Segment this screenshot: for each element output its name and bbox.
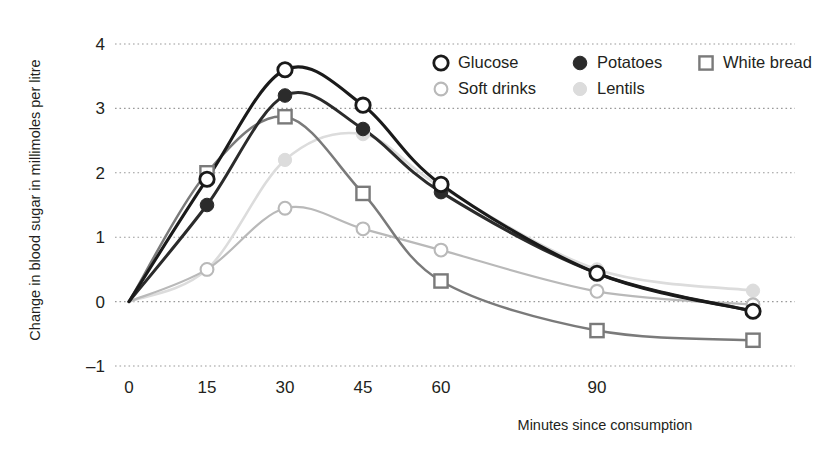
marker-potatoes-45 [356,122,370,136]
x-tick-60: 60 [432,378,451,397]
marker-white-bread-45 [356,187,369,200]
marker-white-bread-60 [434,274,447,287]
marker-soft-drinks-90 [591,285,604,298]
y-tick-4: 4 [96,35,105,54]
y-tick-1: 1 [96,228,105,247]
y-tick--1: –1 [86,357,105,376]
x-tick-0: 0 [124,378,133,397]
legend-label-potatoes: Potatoes [597,53,662,71]
marker-white-bread-90 [590,324,603,337]
marker-soft-drinks-15 [201,263,214,276]
chart-figure: –101234 01530456090 Minutes since consum… [0,0,838,469]
y-axis-title: Change in blood sugar in millimoles per … [27,59,43,340]
x-tick-90: 90 [588,378,607,397]
marker-glucose-90 [590,266,604,280]
marker-glucose-60 [434,177,448,191]
marker-soft-drinks-30 [279,202,292,215]
x-tick-45: 45 [354,378,373,397]
legend-marker-potatoes [573,56,587,70]
marker-lentils-30 [278,153,291,166]
legend-marker-soft-drinks [435,83,448,96]
marker-glucose-30 [278,63,292,77]
legend-label-white-bread: White bread [723,53,812,71]
y-tick-3: 3 [96,99,105,118]
marker-white-bread-30 [278,110,291,123]
y-tick-0: 0 [96,293,105,312]
marker-glucose-90 [746,304,760,318]
legend-marker-glucose [434,56,448,70]
marker-potatoes-15 [200,198,214,212]
y-tick-2: 2 [96,164,105,183]
line-chart-svg: –101234 01530456090 Minutes since consum… [0,0,838,469]
x-axis-title: Minutes since consumption [518,417,693,433]
legend-marker-lentils [573,82,586,95]
x-tick-30: 30 [276,378,295,397]
legend-label-lentils: Lentils [597,79,645,97]
legend-label-glucose: Glucose [458,53,519,71]
legend-label-soft-drinks: Soft drinks [458,79,536,97]
legend-marker-white-bread [699,56,712,69]
x-tick-15: 15 [198,378,217,397]
marker-white-bread-90 [746,334,759,347]
marker-glucose-15 [200,172,214,186]
marker-soft-drinks-45 [357,222,370,235]
marker-potatoes-30 [278,89,292,103]
marker-soft-drinks-60 [435,244,448,257]
marker-lentils-90 [746,284,759,297]
marker-glucose-45 [356,98,370,112]
